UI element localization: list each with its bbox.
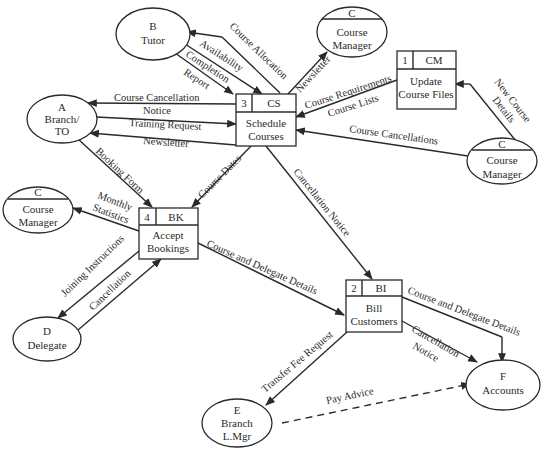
label-course-cancellation: Course Cancellation <box>114 92 200 103</box>
flow-cancellation-notice-bi <box>266 146 372 279</box>
flow-pay-advice <box>282 384 470 423</box>
entity-delegate: D Delegate <box>13 317 81 361</box>
entity-letter: C <box>498 138 505 150</box>
data-flow-diagram: B Tutor A Branch/ TO C Course Manager C … <box>0 0 547 455</box>
process-accept-bookings: 4 BK Accept Bookings <box>139 208 198 259</box>
entity-tutor: B Tutor <box>116 8 190 60</box>
entity-letter: C <box>34 186 41 198</box>
entity-label-line2: Manager <box>18 216 57 228</box>
flow-course-cancellation-notice <box>88 103 236 104</box>
process-update-course-files: 1 CM Update Course Files <box>397 51 456 109</box>
process-name-line1: Update <box>410 75 442 87</box>
label-newsletter-branch: Newsletter <box>143 135 190 149</box>
process-name-line1: Bill <box>366 302 383 314</box>
entity-course-manager-top: C Course Manager <box>317 7 387 57</box>
entity-letter: E <box>234 404 241 416</box>
process-code: CM <box>425 54 442 66</box>
process-schedule-courses: 3 CS Schedule Courses <box>236 94 296 146</box>
entity-label: Delegate <box>27 339 66 351</box>
process-name-line2: Courses <box>248 130 283 142</box>
entity-label-line2: L.Mgr <box>223 430 252 442</box>
label-course-cancellations: Course Cancellations <box>349 123 439 146</box>
process-bill-customers: 2 BI Bill Customers <box>346 280 402 332</box>
label-notice: Notice <box>143 105 171 116</box>
label-course-delegate-details-bk: Course and Delegate Details <box>205 238 319 297</box>
entity-branch-lmgr: E Branch L.Mgr <box>202 399 272 447</box>
entity-course-manager-right: C Course Manager <box>467 138 537 184</box>
entity-letter: F <box>500 370 506 382</box>
flow-course-allocation-end <box>187 32 222 37</box>
process-code: BK <box>168 211 183 223</box>
entity-label-line2: Manager <box>332 39 371 51</box>
entity-letter: C <box>348 7 355 19</box>
process-name-line2: Customers <box>350 315 397 327</box>
label-newsletter-cm: Newsletter <box>293 53 332 94</box>
entity-label: Tutor <box>141 34 165 46</box>
entity-accounts: F Accounts <box>466 360 540 410</box>
entity-label-line1: Branch/ <box>45 113 81 125</box>
entity-label-line1: Course <box>336 26 367 38</box>
entity-label-line2: TO <box>55 125 70 137</box>
process-name-line2: Course Files <box>398 88 453 100</box>
process-number: 3 <box>241 97 247 109</box>
label-pay-advice: Pay Advice <box>325 385 375 406</box>
process-number: 1 <box>402 54 408 66</box>
entity-branch-to: A Branch/ TO <box>27 95 97 143</box>
label-course-dates: Course Dates <box>196 153 244 201</box>
entity-letter: A <box>58 101 66 113</box>
process-number: 4 <box>144 211 150 223</box>
process-code: BI <box>376 282 387 294</box>
entity-label-line1: Branch <box>221 417 253 429</box>
entity-label-line1: Course <box>486 154 517 166</box>
process-name-line2: Bookings <box>147 242 189 254</box>
entity-letter: D <box>43 325 51 337</box>
entity-label: Accounts <box>482 384 524 396</box>
process-number: 2 <box>351 282 357 294</box>
label-cancellation-delegate: Cancellation <box>87 267 133 312</box>
entity-label-line1: Course <box>22 203 53 215</box>
process-code: CS <box>267 97 280 109</box>
process-name-line1: Accept <box>152 229 183 241</box>
label-transfer-fee-request: Transfer Fee Request <box>259 329 335 395</box>
label-cancellation-notice-bi: Cancellation Notice <box>291 166 352 238</box>
entity-letter: B <box>149 20 156 32</box>
label-booking-form: Booking Form <box>94 145 147 195</box>
process-name-line1: Schedule <box>246 117 286 129</box>
entity-course-manager-left: C Course Manager <box>3 186 73 233</box>
entity-label-line2: Manager <box>482 168 521 180</box>
label-training-request: Training Request <box>129 117 202 132</box>
